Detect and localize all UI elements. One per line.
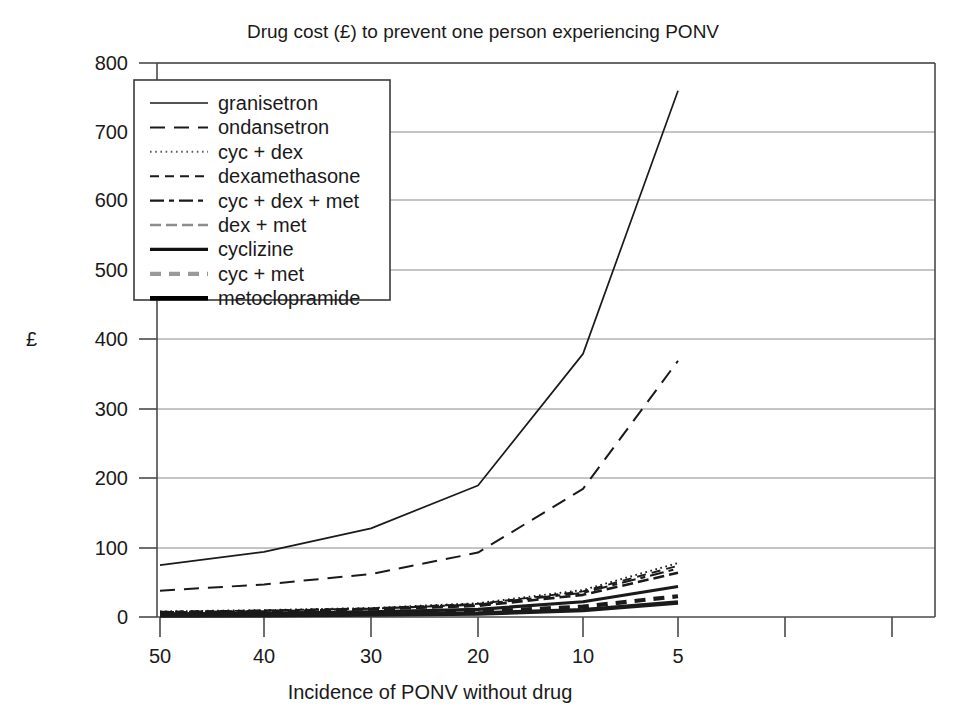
- chart-figure: Drug cost (£) to prevent one person expe…: [0, 0, 967, 717]
- legend-label-granisetron: granisetron: [218, 92, 318, 114]
- legend-label-metoclopramide: metoclopramide: [218, 287, 360, 309]
- y-axis-label: £: [26, 328, 37, 350]
- series-line-ondansetron: [160, 361, 678, 591]
- chart-legend: granisetronondansetroncyc + dexdexametha…: [134, 80, 390, 309]
- legend-label-cyc-met: cyc + met: [218, 263, 305, 285]
- legend-label-cyc-dex-met: cyc + dex + met: [218, 190, 360, 212]
- legend-label-dex-met: dex + met: [218, 214, 307, 236]
- y-tick-labels: 800 700 600 500 400 300 200 100 0: [95, 52, 128, 628]
- x-tick-marks: [160, 617, 892, 637]
- xtick-label-10: 10: [572, 645, 594, 667]
- x-axis-label: Incidence of PONV without drug: [288, 681, 573, 703]
- xtick-label-50: 50: [149, 645, 171, 667]
- ytick-label-800: 800: [95, 52, 128, 74]
- xtick-label-30: 30: [360, 645, 382, 667]
- legend-label-cyclizine: cyclizine: [218, 238, 294, 260]
- ytick-label-0: 0: [117, 606, 128, 628]
- legend-label-dexamethasone: dexamethasone: [218, 165, 360, 187]
- chart-title: Drug cost (£) to prevent one person expe…: [247, 21, 719, 42]
- ytick-label-500: 500: [95, 259, 128, 281]
- legend-label-ondansetron: ondansetron: [218, 116, 329, 138]
- xtick-label-20: 20: [467, 645, 489, 667]
- ytick-label-200: 200: [95, 467, 128, 489]
- xtick-label-5: 5: [672, 645, 683, 667]
- ytick-label-700: 700: [95, 121, 128, 143]
- x-tick-labels: 50 40 30 20 10 5: [149, 645, 684, 667]
- ytick-label-400: 400: [95, 328, 128, 350]
- xtick-label-40: 40: [253, 645, 275, 667]
- legend-label-cyc-dex: cyc + dex: [218, 141, 303, 163]
- ytick-label-100: 100: [95, 537, 128, 559]
- line-chart: Drug cost (£) to prevent one person expe…: [0, 0, 967, 717]
- ytick-label-300: 300: [95, 398, 128, 420]
- ytick-label-600: 600: [95, 189, 128, 211]
